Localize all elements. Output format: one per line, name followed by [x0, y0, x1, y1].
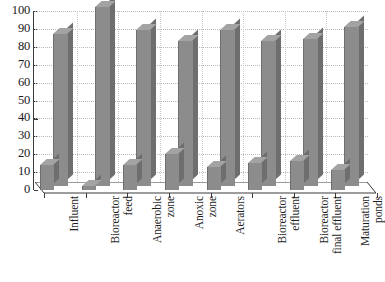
y-axis-tick-label: 100	[0, 4, 30, 16]
bars-layer	[35, 11, 376, 190]
bar-back	[95, 1, 115, 186]
x-axis-category-label: Aerators	[234, 196, 260, 282]
bar-front	[248, 157, 267, 190]
y-axis-tick-label: 80	[0, 40, 30, 52]
bar-front-face	[82, 186, 96, 190]
x-axis-category-label: Influent	[68, 196, 94, 282]
bar-group	[35, 11, 77, 190]
bar-group	[118, 11, 160, 190]
y-axis-tick-label: 10	[0, 165, 30, 177]
bar-front	[290, 155, 309, 190]
x-axis-category-label: Bioreactor final effluent	[318, 196, 344, 282]
y-axis-tick-label: 60	[0, 76, 30, 88]
y-axis-tick-label: 20	[0, 147, 30, 159]
y-axis-tick-label: 50	[0, 94, 30, 106]
bar-front	[331, 164, 350, 190]
bar-front	[123, 159, 142, 190]
y-axis-tick-label: 30	[0, 129, 30, 141]
x-axis-category-label: Bioreactor effluent	[276, 196, 302, 282]
bar-front-face	[248, 163, 262, 190]
x-axis-category-labels: InfluentBioreactor feedAnaerobic zoneAno…	[35, 196, 376, 282]
y-axis-tick-label: 40	[0, 111, 30, 123]
x-axis-category-label: Anoxic zone	[193, 196, 219, 282]
bar-group	[326, 11, 368, 190]
bar-group	[285, 11, 327, 190]
x-axis-category-label: Bioreactor feed	[109, 196, 135, 282]
bar-front	[40, 159, 59, 190]
bar-group	[160, 11, 202, 190]
bar-front-face	[123, 165, 137, 190]
bar-front-face	[331, 170, 345, 190]
y-axis-tick-labels: 0102030405060708090100	[0, 0, 30, 200]
bar-front-face	[165, 154, 179, 190]
y-axis-tick-label: 0	[0, 183, 30, 195]
y-axis-tick-label: 90	[0, 22, 30, 34]
x-axis-category-label: Anaerobic zone	[151, 196, 177, 282]
bar-front-face	[290, 161, 304, 190]
bar-front	[207, 161, 226, 190]
bar-front	[82, 180, 101, 190]
x-axis-category-label: Maturation ponds	[359, 196, 385, 282]
bar-front-face	[40, 165, 54, 190]
y-axis-tick-label: 70	[0, 58, 30, 70]
bar-front	[165, 148, 184, 190]
bar-group	[243, 11, 285, 190]
bar-front-face	[207, 167, 221, 190]
bar-group	[77, 11, 119, 190]
bar-group	[202, 11, 244, 190]
bar-front-face	[95, 7, 110, 186]
